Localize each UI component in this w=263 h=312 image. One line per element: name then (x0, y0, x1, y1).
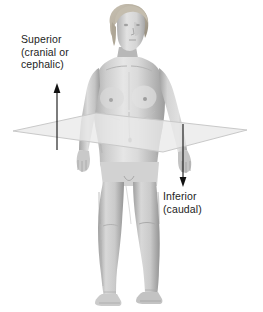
superior-label-line-1: Superior (21, 33, 69, 46)
inferior-label-line-1: Inferior (163, 190, 202, 203)
inferior-label: Inferior (caudal) (163, 190, 202, 215)
anatomical-figure-diagram: Superior (cranial or cephalic) Inferior … (0, 0, 263, 312)
superior-label-line-2: (cranial or (21, 46, 69, 59)
inferior-label-line-2: (caudal) (163, 203, 202, 216)
inferior-arrow (180, 124, 187, 187)
superior-label-line-3: cephalic) (21, 58, 69, 71)
superior-label: Superior (cranial or cephalic) (21, 33, 69, 71)
superior-arrow (54, 83, 61, 150)
